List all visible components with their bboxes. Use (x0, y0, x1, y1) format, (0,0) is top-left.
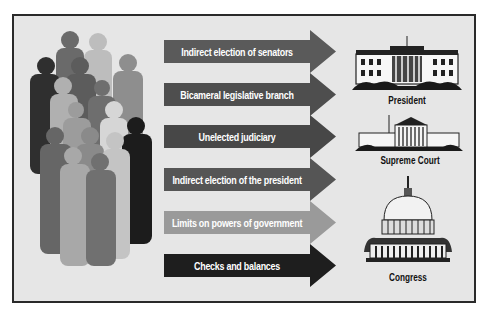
capitol-icon (362, 176, 454, 268)
arrow-label: Unelected judiciary (175, 115, 299, 158)
arrow-bicameral-legislative-branch: Bicameral legislative branch (164, 73, 336, 116)
arrow-label: Indirect election of the president (175, 158, 299, 201)
arrow-label: Bicameral legislative branch (175, 73, 299, 116)
white-house-icon (352, 34, 462, 92)
supreme-court-icon (355, 113, 463, 153)
people-silhouettes-icon (18, 28, 158, 273)
arrow-label: Limits on powers of government (175, 201, 299, 244)
supreme-court-caption: Supreme Court (379, 155, 441, 166)
arrow-limits-on-powers: Limits on powers of government (164, 201, 336, 244)
arrow-label: Indirect election of senators (175, 30, 299, 73)
president-caption: President (378, 95, 435, 106)
arrow-indirect-election-president: Indirect election of the president (164, 158, 336, 201)
arrow-unelected-judiciary: Unelected judiciary (164, 115, 336, 158)
arrow-checks-and-balances: Checks and balances (164, 244, 336, 287)
arrow-indirect-election-senators: Indirect election of senators (164, 30, 336, 73)
arrow-label: Checks and balances (175, 244, 299, 287)
congress-caption: Congress (379, 272, 436, 283)
